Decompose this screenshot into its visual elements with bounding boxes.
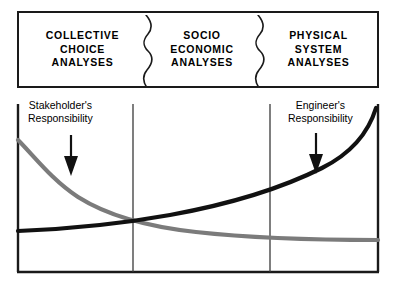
band-label-line: PHYSICAL [289, 29, 348, 43]
annotation-line: Engineer's [288, 99, 353, 112]
annotation-line: Stakeholder's [28, 99, 93, 112]
band-label-line: ANALYSES [288, 56, 350, 70]
responsibility-transition-figure: COLLECTIVE CHOICE ANALYSES SOCIO ECONOMI… [0, 0, 396, 288]
band-cell-physical-system: PHYSICAL SYSTEM ANALYSES [258, 13, 379, 86]
band-label-line: ECONOMIC [170, 43, 233, 57]
analysis-phase-band: COLLECTIVE CHOICE ANALYSES SOCIO ECONOMI… [17, 11, 379, 88]
band-cell-collective-choice: COLLECTIVE CHOICE ANALYSES [19, 13, 146, 86]
chart-canvas [0, 96, 396, 288]
band-label-line: SYSTEM [295, 43, 342, 57]
stakeholder-arrow-icon [64, 135, 78, 176]
annotation-line: Responsibility [28, 112, 93, 125]
band-label-line: ANALYSES [171, 56, 233, 70]
band-label-line: CHOICE [60, 43, 105, 57]
engineer-annotation-label: Engineer's Responsibility [288, 99, 353, 124]
band-cell-socio-economic: SOCIO ECONOMIC ANALYSES [146, 13, 258, 86]
responsibility-chart: Stakeholder's Responsibility Engineer's … [0, 96, 396, 288]
band-label-line: ANALYSES [52, 56, 114, 70]
stakeholder-annotation-label: Stakeholder's Responsibility [28, 99, 93, 124]
band-label-line: SOCIO [183, 29, 220, 43]
band-label-line: COLLECTIVE [46, 29, 120, 43]
annotation-line: Responsibility [288, 112, 353, 125]
